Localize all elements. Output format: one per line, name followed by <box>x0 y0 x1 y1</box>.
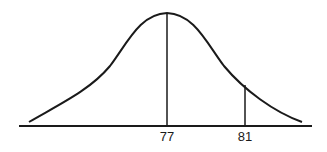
mean-label: 77 <box>160 129 174 144</box>
value-81-label: 81 <box>238 129 252 144</box>
normal-curve-diagram: 77 81 <box>0 0 327 152</box>
bell-curve <box>29 13 302 122</box>
